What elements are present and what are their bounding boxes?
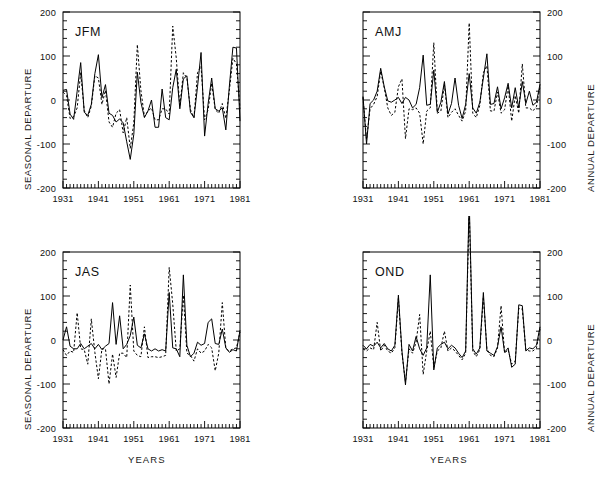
jfm-y-axis-label: SEASONAL DEPARTURE xyxy=(22,68,33,190)
series-dashed xyxy=(63,26,240,148)
x-tick-label: 1941 xyxy=(388,434,409,444)
x-tick-label: 1961 xyxy=(159,434,180,444)
y-tick-label: 100 xyxy=(40,292,56,302)
y-tick-label: 100 xyxy=(547,292,563,302)
y-tick-label: 0 xyxy=(547,336,552,346)
y-tick-label: -100 xyxy=(547,140,566,150)
y-tick-label: -200 xyxy=(37,424,56,434)
x-tick-label: 1971 xyxy=(194,194,215,204)
y-tick-label: 200 xyxy=(547,248,563,258)
y-tick-label: 200 xyxy=(547,8,563,18)
y-tick-label: -200 xyxy=(37,184,56,194)
y-tick-label: -100 xyxy=(547,380,566,390)
x-tick-label: 1951 xyxy=(123,434,144,444)
ond-y-axis-label: ANNUAL DEPARTURE xyxy=(585,324,596,432)
x-tick-label: 1941 xyxy=(388,194,409,204)
panel-jfm: SEASONAL DEPARTURE 193119411951196119711… xyxy=(0,0,302,220)
x-tick-label: 1941 xyxy=(88,194,109,204)
y-tick-label: -200 xyxy=(547,184,566,194)
y-tick-label: 100 xyxy=(40,52,56,62)
y-tick-label: -200 xyxy=(547,424,566,434)
x-tick-label: 1951 xyxy=(423,194,444,204)
series-dashed xyxy=(363,216,540,382)
x-tick-label: 1961 xyxy=(459,434,480,444)
amj-y-axis-label: ANNUAL DEPARTURE xyxy=(585,84,596,192)
series-dashed xyxy=(63,267,240,384)
x-tick-label: 1971 xyxy=(194,434,215,444)
y-tick-label: 200 xyxy=(40,248,56,258)
y-tick-label: 100 xyxy=(547,52,563,62)
series-dashed xyxy=(363,23,540,144)
x-tick-label: 1931 xyxy=(52,434,73,444)
y-tick-label: 0 xyxy=(51,96,56,106)
panel-title: OND xyxy=(375,265,405,279)
x-tick-label: 1961 xyxy=(159,194,180,204)
x-tick-label: 1961 xyxy=(459,194,480,204)
panel-title: JAS xyxy=(75,265,100,279)
x-tick-label: 1951 xyxy=(123,194,144,204)
panel-ond: ANNUAL DEPARTURE 19311941195119611971198… xyxy=(302,240,604,484)
x-tick-label: 1931 xyxy=(352,434,373,444)
figure-canvas: SEASONAL DEPARTURE 193119411951196119711… xyxy=(0,0,604,484)
ond-plot: 1931194119511961197119812001000-100-200O… xyxy=(302,216,604,460)
y-tick-label: -100 xyxy=(37,380,56,390)
panel-jas: SEASONAL DEPARTURE 193119411951196119711… xyxy=(0,240,302,484)
x-tick-label: 1981 xyxy=(229,194,250,204)
amj-plot: 1931194119511961197119812001000-100-200A… xyxy=(302,0,604,220)
series-solid xyxy=(363,216,540,385)
series-solid xyxy=(363,54,540,144)
x-tick-label: 1951 xyxy=(423,434,444,444)
panel-title: AMJ xyxy=(375,25,402,39)
jfm-plot: 1931194119511961197119812001000-100-200J… xyxy=(0,0,302,220)
x-tick-label: 1971 xyxy=(494,194,515,204)
x-tick-label: 1971 xyxy=(494,434,515,444)
y-tick-label: 0 xyxy=(547,96,552,106)
x-tick-label: 1931 xyxy=(52,194,73,204)
panel-amj: ANNUAL DEPARTURE 19311941195119611971198… xyxy=(302,0,604,220)
y-tick-label: -100 xyxy=(37,140,56,150)
x-tick-label: 1981 xyxy=(229,434,250,444)
ond-x-axis-label: YEARS xyxy=(430,454,468,465)
x-tick-label: 1931 xyxy=(352,194,373,204)
panel-title: JFM xyxy=(75,25,101,39)
jas-y-axis-label: SEASONAL DEPARTURE xyxy=(22,308,33,430)
x-tick-label: 1981 xyxy=(529,194,550,204)
x-tick-label: 1981 xyxy=(529,434,550,444)
y-tick-label: 200 xyxy=(40,8,56,18)
y-tick-label: 0 xyxy=(51,336,56,346)
x-tick-label: 1941 xyxy=(88,434,109,444)
jas-plot: 1931194119511961197119812001000-100-200J… xyxy=(0,240,302,460)
series-solid xyxy=(63,275,240,357)
series-solid xyxy=(63,47,240,159)
jas-x-axis-label: YEARS xyxy=(128,454,166,465)
